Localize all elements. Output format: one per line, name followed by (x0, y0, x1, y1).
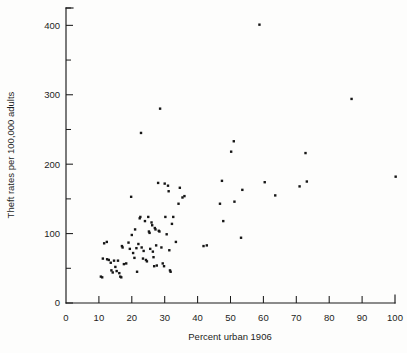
data-point (152, 250, 154, 252)
data-point (258, 23, 260, 25)
y-axis-minor-ticks (66, 8, 71, 268)
x-tick-label-10: 10 (94, 312, 105, 323)
data-point (120, 276, 122, 278)
data-point (350, 98, 352, 100)
data-point (154, 228, 156, 230)
data-point (298, 185, 300, 187)
y-axis-title: Theft rates per 100,000 adults (5, 91, 16, 218)
y-tick-label-300: 300 (44, 89, 60, 100)
data-point (306, 180, 308, 182)
data-point (106, 241, 108, 243)
data-point (142, 257, 144, 259)
scatter-plot-figure: 0100200300400 0102030405060708090100 Per… (0, 0, 407, 353)
data-point (394, 175, 396, 177)
data-point (149, 248, 151, 250)
data-point (110, 262, 112, 264)
data-point (165, 233, 167, 235)
data-point (241, 189, 243, 191)
y-axis-tick-labels: 0100200300400 (44, 20, 60, 309)
y-tick-label-400: 400 (44, 20, 60, 31)
data-point (121, 246, 123, 248)
data-point (147, 216, 149, 218)
data-point (179, 187, 181, 189)
data-point (171, 223, 173, 225)
data-point (134, 228, 136, 230)
data-point (169, 271, 171, 273)
data-point (206, 244, 208, 246)
y-tick-label-100: 100 (44, 228, 60, 239)
data-point (155, 244, 157, 246)
data-point (146, 260, 148, 262)
data-point (264, 181, 266, 183)
data-point (103, 242, 105, 244)
x-tick-label-80: 80 (324, 312, 335, 323)
data-point (140, 132, 142, 134)
x-tick-label-100: 100 (387, 312, 403, 323)
y-tick-label-200: 200 (44, 159, 60, 170)
data-point (172, 216, 174, 218)
data-point (159, 107, 161, 109)
data-point (183, 195, 185, 197)
data-point (274, 194, 276, 196)
data-point (130, 196, 132, 198)
x-tick-label-50: 50 (225, 312, 236, 323)
x-tick-label-20: 20 (127, 312, 138, 323)
x-axis-tick-labels: 0102030405060708090100 (63, 312, 403, 323)
data-point (133, 257, 135, 259)
data-point (233, 200, 235, 202)
data-point (177, 203, 179, 205)
data-point (164, 182, 166, 184)
data-point (221, 180, 223, 182)
data-point (156, 264, 158, 266)
data-point (118, 272, 120, 274)
data-point (202, 245, 204, 247)
data-point (125, 262, 127, 264)
data-point (240, 237, 242, 239)
x-tick-label-0: 0 (63, 312, 68, 323)
data-point (157, 182, 159, 184)
data-point (163, 265, 165, 267)
data-point (219, 203, 221, 205)
data-point (127, 241, 129, 243)
data-point (160, 246, 162, 248)
plot-canvas: 0100200300400 0102030405060708090100 Per… (0, 0, 407, 353)
data-point (222, 220, 224, 222)
data-point (152, 256, 154, 258)
data-point (233, 140, 235, 142)
data-point (135, 247, 137, 249)
data-point (114, 266, 116, 268)
data-point (162, 262, 164, 264)
data-point (175, 241, 177, 243)
data-point (230, 150, 232, 152)
x-tick-label-30: 30 (159, 312, 170, 323)
data-point (153, 265, 155, 267)
x-tick-label-70: 70 (291, 312, 302, 323)
data-point (123, 263, 125, 265)
data-point (115, 270, 117, 272)
data-point (108, 259, 110, 261)
data-point (132, 252, 134, 254)
data-point (137, 243, 139, 245)
x-tick-label-90: 90 (357, 312, 368, 323)
data-point (144, 220, 146, 222)
x-tick-label-40: 40 (192, 312, 203, 323)
data-point (136, 271, 138, 273)
data-point (150, 221, 152, 223)
data-point (139, 216, 141, 218)
data-point (158, 230, 160, 232)
x-tick-label-60: 60 (258, 312, 269, 323)
data-point (148, 232, 150, 234)
data-point (151, 224, 153, 226)
data-point (110, 269, 112, 271)
data-point (117, 259, 119, 261)
data-point (164, 216, 166, 218)
data-point (140, 246, 142, 248)
x-axis-ticks (99, 296, 362, 303)
data-point (113, 259, 115, 261)
data-point (167, 190, 169, 192)
data-points-layer (100, 23, 397, 278)
data-point (167, 184, 169, 186)
y-tick-label-0: 0 (55, 297, 60, 308)
data-point (112, 271, 114, 273)
data-point (142, 250, 144, 252)
